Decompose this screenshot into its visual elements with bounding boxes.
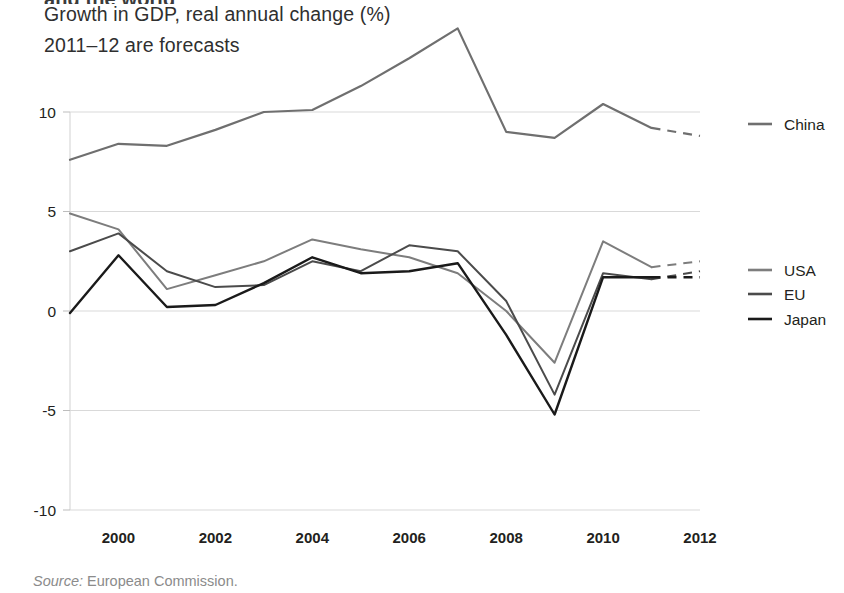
series-forecast-china bbox=[652, 128, 701, 136]
data-series-group bbox=[70, 28, 700, 414]
legend-label-usa: USA bbox=[784, 262, 817, 279]
x-tick-label: 2000 bbox=[102, 529, 135, 546]
y-tick-label: -10 bbox=[34, 502, 57, 519]
y-tick-label: 0 bbox=[47, 303, 56, 320]
series-forecast-usa bbox=[652, 261, 701, 267]
series-line-eu bbox=[70, 233, 652, 394]
x-tick-label: 2010 bbox=[586, 529, 619, 546]
x-tick-label: 2004 bbox=[296, 529, 330, 546]
x-tick-label: 2006 bbox=[393, 529, 426, 546]
x-tick-label: 2008 bbox=[489, 529, 522, 546]
chart-page: and the world Growth in GDP, real annual… bbox=[0, 0, 844, 593]
gridlines bbox=[70, 112, 700, 510]
y-tick-label: 10 bbox=[39, 104, 57, 121]
series-line-usa bbox=[70, 214, 652, 363]
source-text: European Commission. bbox=[87, 573, 238, 589]
x-tick-label: 2002 bbox=[199, 529, 232, 546]
source-label: Source: bbox=[33, 573, 83, 589]
x-axis-tick-labels: 2000200220042006200820102012 bbox=[102, 529, 717, 546]
y-tick-label: 5 bbox=[47, 203, 56, 220]
source-note: Source: European Commission. bbox=[33, 573, 238, 589]
series-line-china bbox=[70, 28, 652, 159]
legend-label-eu: EU bbox=[784, 286, 806, 303]
series-line-japan bbox=[70, 255, 652, 414]
legend-label-china: China bbox=[784, 116, 825, 133]
y-tick-label: -5 bbox=[42, 402, 56, 419]
x-tick-label: 2012 bbox=[683, 529, 716, 546]
chart-legend: ChinaUSAEUJapan bbox=[748, 116, 826, 328]
gdp-growth-line-chart: 1050-5-10 2000200220042006200820102012 C… bbox=[0, 0, 844, 593]
axis-frame bbox=[63, 112, 70, 510]
y-axis-tick-labels: 1050-5-10 bbox=[34, 104, 57, 519]
legend-label-japan: Japan bbox=[784, 311, 826, 328]
